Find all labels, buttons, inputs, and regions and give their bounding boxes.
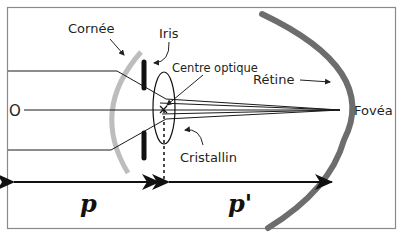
lens-pointer-arrow	[185, 130, 203, 145]
ray-lower	[8, 110, 340, 150]
label-distance-p-prime: p'	[228, 189, 252, 218]
label-fovea: Fovéa	[354, 103, 393, 118]
label-optical-center: Centre optique	[172, 61, 258, 75]
label-cornea: Cornée	[68, 21, 114, 36]
diagram-frame	[8, 8, 396, 229]
label-distance-p: p	[80, 189, 97, 218]
retina-arc	[262, 14, 352, 228]
eye-optics-diagram: Cornée Iris Centre optique Rétine Fovéa …	[0, 0, 401, 235]
label-iris: Iris	[159, 26, 179, 41]
label-retina: Rétine	[253, 72, 294, 87]
cornea-arc	[112, 52, 141, 173]
retina-pointer-arrow	[300, 80, 330, 82]
label-lens: Cristallin	[180, 150, 237, 165]
cornea-pointer-arrow	[110, 39, 124, 55]
ray-center-lower	[162, 110, 340, 114]
lens-ellipse	[153, 72, 175, 144]
iris-pointer-arrow	[154, 42, 169, 63]
label-object: O	[9, 102, 21, 120]
